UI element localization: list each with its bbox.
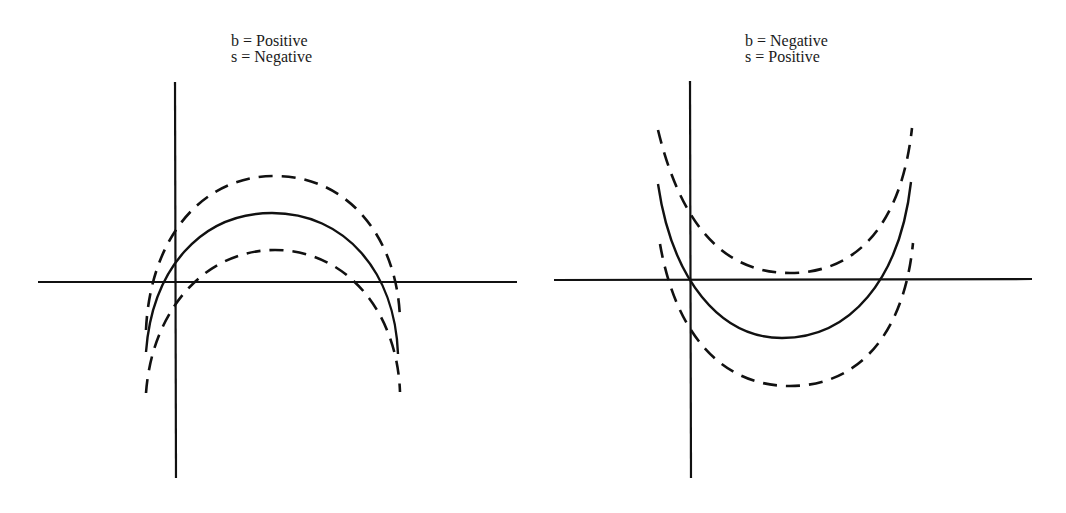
right-center-solid-curve <box>658 182 911 338</box>
right-panel <box>554 81 1032 478</box>
diagram-canvas <box>0 0 1066 513</box>
left-center-solid-curve <box>146 213 398 354</box>
right-lower-dashed-curve <box>660 243 913 386</box>
left-lower-dashed-curve <box>146 250 400 393</box>
right-upper-dashed-curve <box>658 128 912 273</box>
left-panel <box>38 82 517 478</box>
right-x-axis <box>554 279 1032 280</box>
left-y-axis <box>175 82 176 478</box>
